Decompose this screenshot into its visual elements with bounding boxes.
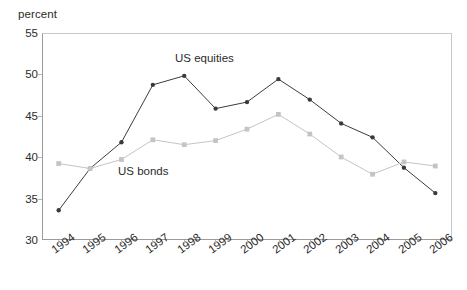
data-point-marker <box>433 191 437 195</box>
y-axis-tick-mark <box>38 157 42 158</box>
series-label-us-bonds: US bonds <box>118 165 169 177</box>
x-axis-tick-mark <box>436 240 437 244</box>
plot-area <box>42 33 452 240</box>
data-point-marker <box>339 155 344 160</box>
chart-container: percent 303540455055 1994199519961997199… <box>0 0 467 290</box>
x-axis-tick-mark <box>121 240 122 244</box>
y-axis-tick-label: 55 <box>4 27 38 39</box>
x-axis-tick-mark <box>247 240 248 244</box>
x-axis-tick-mark <box>58 240 59 244</box>
data-point-marker <box>307 132 312 137</box>
y-axis-tick-label: 50 <box>4 68 38 80</box>
data-point-marker <box>370 172 375 177</box>
data-point-marker <box>433 164 438 169</box>
x-axis-tick-mark <box>342 240 343 244</box>
data-point-marker <box>182 142 187 147</box>
y-axis-tick-mark <box>38 199 42 200</box>
data-point-marker <box>308 97 312 101</box>
series-us-equities <box>57 74 438 213</box>
data-point-marker <box>276 112 281 117</box>
y-axis-ticks: 303540455055 <box>0 33 38 240</box>
y-axis-unit-label: percent <box>18 8 57 20</box>
series-plot-svg <box>43 34 451 239</box>
x-axis-tick-mark <box>279 240 280 244</box>
data-point-marker <box>56 161 61 166</box>
data-point-marker <box>402 165 406 169</box>
series-line <box>59 76 436 210</box>
data-point-marker <box>88 166 93 171</box>
data-point-marker <box>119 157 124 162</box>
series-us-bonds <box>56 112 437 177</box>
data-point-marker <box>370 135 374 139</box>
x-axis-tick-mark <box>184 240 185 244</box>
x-axis-tick-mark <box>215 240 216 244</box>
data-point-marker <box>150 137 155 142</box>
data-point-marker <box>119 140 123 144</box>
data-point-marker <box>245 127 250 132</box>
data-point-marker <box>339 121 343 125</box>
x-axis-tick-mark <box>373 240 374 244</box>
data-point-marker <box>402 160 407 165</box>
y-axis-tick-mark <box>38 74 42 75</box>
data-point-marker <box>182 74 186 78</box>
y-axis-tick-label: 45 <box>4 110 38 122</box>
series-line <box>59 114 436 174</box>
data-point-marker <box>151 83 155 87</box>
data-point-marker <box>245 100 249 104</box>
y-axis-tick-label: 30 <box>4 234 38 246</box>
x-axis-tick-mark <box>89 240 90 244</box>
x-axis-tick-mark <box>152 240 153 244</box>
series-label-us-equities: US equities <box>175 52 234 64</box>
data-point-marker <box>57 208 61 212</box>
x-axis-tick-mark <box>310 240 311 244</box>
y-axis-tick-mark <box>38 116 42 117</box>
data-point-marker <box>276 77 280 81</box>
y-axis-tick-label: 35 <box>4 193 38 205</box>
data-point-marker <box>213 138 218 143</box>
y-axis-tick-label: 40 <box>4 151 38 163</box>
data-point-marker <box>213 106 217 110</box>
x-axis-tick-mark <box>405 240 406 244</box>
